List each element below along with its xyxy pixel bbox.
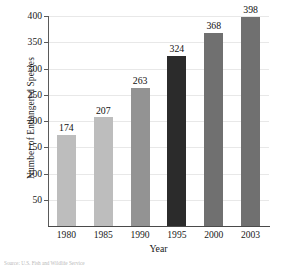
y-tick-label: 100 bbox=[28, 169, 42, 179]
plot-area: 50100150200250300350400 1742072633243683… bbox=[48, 16, 269, 226]
x-axis-line bbox=[48, 226, 270, 227]
x-tick-label: 1990 bbox=[122, 230, 159, 240]
bar-value-label: 368 bbox=[206, 21, 221, 31]
bar: 324 bbox=[167, 56, 186, 226]
gridline bbox=[49, 121, 269, 122]
bar: 368 bbox=[204, 33, 223, 226]
gridline bbox=[49, 16, 269, 17]
y-tick-label: 300 bbox=[28, 64, 42, 74]
y-tick-label: 200 bbox=[28, 116, 42, 126]
bar-value-label: 174 bbox=[59, 123, 74, 133]
gridline bbox=[49, 200, 269, 201]
y-tick-mark bbox=[44, 121, 48, 122]
y-tick-mark bbox=[44, 42, 48, 43]
y-tick-mark bbox=[44, 16, 48, 17]
gridline bbox=[49, 69, 269, 70]
bar: 207 bbox=[94, 117, 113, 226]
bar-value-label: 324 bbox=[170, 44, 185, 54]
bar-chart-figure: Number of Endangered Species 50100150200… bbox=[0, 0, 282, 269]
y-tick-label: 50 bbox=[32, 195, 42, 205]
y-tick-mark bbox=[44, 200, 48, 201]
x-tick-label: 2000 bbox=[195, 230, 232, 240]
y-tick-label: 400 bbox=[28, 11, 42, 21]
bar: 174 bbox=[57, 135, 76, 226]
bar: 263 bbox=[131, 88, 150, 226]
y-tick-label: 150 bbox=[28, 142, 42, 152]
x-tick-label: 1985 bbox=[85, 230, 122, 240]
y-tick-label: 250 bbox=[28, 90, 42, 100]
x-tick-label: 1995 bbox=[159, 230, 196, 240]
bar-value-label: 263 bbox=[133, 76, 148, 86]
y-tick-mark bbox=[44, 69, 48, 70]
gridline bbox=[49, 174, 269, 175]
caption-remnant: Source: U.S. Fish and Wildlife Service bbox=[4, 261, 194, 266]
x-tick-label: 1980 bbox=[48, 230, 85, 240]
x-tick-label: 2003 bbox=[232, 230, 269, 240]
bar: 398 bbox=[241, 17, 260, 226]
y-tick-label: 350 bbox=[28, 37, 42, 47]
x-axis-title: Year bbox=[48, 243, 269, 254]
gridline bbox=[49, 95, 269, 96]
bar-value-label: 398 bbox=[243, 5, 258, 15]
y-tick-mark bbox=[44, 147, 48, 148]
gridline bbox=[49, 147, 269, 148]
y-tick-mark bbox=[44, 95, 48, 96]
gridline bbox=[49, 42, 269, 43]
y-tick-mark bbox=[44, 174, 48, 175]
bar-value-label: 207 bbox=[96, 106, 111, 116]
